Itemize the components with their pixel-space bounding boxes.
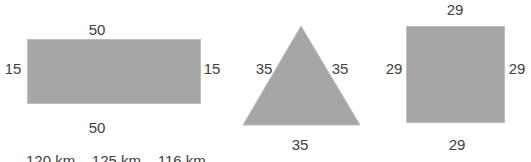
triangle-right-label: 35 — [332, 61, 349, 76]
square-bottom-label: 29 — [449, 137, 466, 152]
triangle-left-label: 35 — [256, 61, 273, 76]
clipped-bottom-text: 120 km 125 km 116 km — [26, 153, 206, 162]
triangle-bottom-label: 35 — [292, 137, 309, 152]
square-top-label: 29 — [447, 2, 464, 17]
square-left-label: 29 — [386, 61, 403, 76]
square-right-label: 29 — [509, 61, 526, 76]
square-shape — [406, 26, 505, 123]
